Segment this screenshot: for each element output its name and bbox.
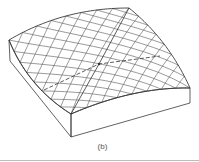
saddle-surface-outline [9,8,190,114]
saddle-surface-grid [9,8,190,114]
surface-diagonals [44,8,160,114]
figure-caption: (b) [0,142,199,152]
bottom-rule [0,160,199,161]
grid-line [102,25,148,102]
grid-line [132,44,164,94]
front-left-edge [9,40,71,114]
saddle-block-diagram [0,0,199,162]
dashed-diagonal-line [44,56,160,90]
solid-diagonal-line [71,8,129,114]
grid-line [66,16,164,44]
grid-line [176,76,185,88]
back-right-edge [129,8,190,88]
saddle-center-point [98,63,100,65]
front-right-face [71,88,190,137]
grid-line [27,72,147,91]
grid-line [81,13,156,35]
